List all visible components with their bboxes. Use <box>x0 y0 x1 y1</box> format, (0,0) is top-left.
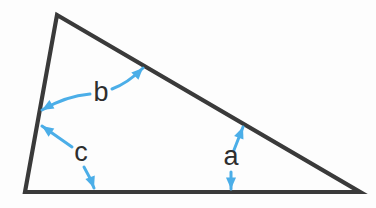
a-arrow-to-base <box>226 172 236 189</box>
angle-label-c: c <box>74 137 88 167</box>
a-arrow-to-hypotenuse-head <box>234 127 243 140</box>
geometry-diagram: bca <box>0 0 376 208</box>
angle-labels: bca <box>74 77 239 171</box>
angle-pointer-arrows <box>42 68 243 189</box>
c-arrow-to-base-head <box>85 175 94 188</box>
diagram-canvas: bca <box>0 0 376 208</box>
angle-label-a: a <box>223 141 239 171</box>
b-arrow-to-left-side <box>42 94 90 110</box>
c-arrow-to-base <box>84 167 95 188</box>
b-arrow-to-hypotenuse <box>112 68 143 89</box>
angle-label-b: b <box>93 77 108 107</box>
c-arrow-to-left-side <box>42 126 72 147</box>
a-arrow-to-base-head <box>226 178 236 190</box>
